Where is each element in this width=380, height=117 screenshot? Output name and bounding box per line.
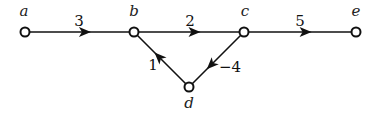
edge-weight-label: −4 (219, 58, 241, 76)
node-circle-icon (185, 83, 194, 92)
edge-line (134, 32, 189, 87)
edge-weight-label: 5 (295, 12, 305, 30)
node-e: e (352, 2, 361, 37)
node-label: e (352, 2, 361, 20)
node-circle-icon (21, 28, 30, 37)
node-circle-icon (240, 28, 249, 37)
node-a: a (20, 2, 30, 37)
node-label: c (241, 2, 250, 20)
weighted-directed-graph: 325−41 abced (0, 0, 380, 117)
edge-weight-label: 2 (185, 12, 195, 30)
node-circle-icon (352, 28, 361, 37)
edge-weight-label: 3 (74, 12, 84, 30)
node-circle-icon (130, 28, 139, 37)
node-label: b (129, 2, 139, 20)
edges-layer: 325−41 (25, 12, 356, 87)
node-label: d (184, 94, 194, 112)
node-d: d (184, 83, 194, 113)
edge-b-c: 2 (134, 12, 244, 37)
node-label: a (20, 2, 29, 20)
node-c: c (240, 2, 250, 37)
edge-weight-label: 1 (148, 56, 158, 74)
node-b: b (129, 2, 139, 37)
edge-d-b: 1 (134, 32, 189, 87)
edge-a-b: 3 (25, 12, 134, 37)
edge-c-e: 5 (244, 12, 356, 37)
edge-c-d: −4 (189, 32, 244, 87)
